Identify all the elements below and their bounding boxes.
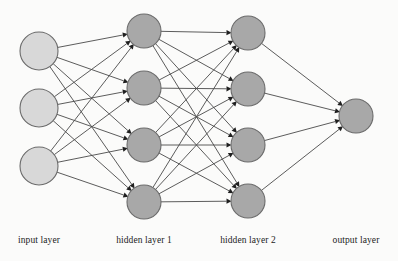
connection-edge [57,172,124,195]
neuron-node-h1_1 [127,14,161,48]
connection-edge [159,43,229,80]
connection-edge [155,44,233,130]
neuron-node-h1_2 [127,71,161,105]
neuron-node-h2_4 [231,184,265,218]
connection-edge [58,35,123,47]
connection-edge [261,43,338,103]
edge-arrowhead [129,44,134,50]
edge-arrowhead [337,126,343,131]
neuron-node-h1_3 [127,128,161,162]
connection-edge [161,88,227,89]
edges-group [50,31,339,202]
edge-arrowhead [125,98,131,103]
connection-edge [264,93,335,111]
connection-edge [54,101,126,155]
neuron-node-h2_1 [231,16,265,50]
neuron-node-i3 [20,147,58,185]
connection-edge [57,57,124,81]
connection-edge [161,201,227,202]
neuron-node-o1 [339,99,373,133]
neural-network-canvas: input layerhidden layer 1hidden layer 2o… [0,0,398,261]
edge-arrowhead [337,101,343,106]
connection-edge [58,149,123,162]
neuron-node-h2_2 [231,72,265,106]
layer-label-hidden1: hidden layer 1 [116,235,172,245]
edge-arrowhead [125,41,131,46]
connection-edge [58,92,123,104]
connection-edge [159,153,229,191]
layer-labels-group: input layerhidden layer 1hidden layer 2o… [18,235,380,245]
connection-edge [153,46,237,183]
connection-edge [264,122,335,141]
connection-edge [51,48,131,151]
connection-edge [53,64,128,131]
arrowheads-group [122,30,343,204]
neuron-node-i2 [20,89,58,127]
neural-network-diagram: input layerhidden layer 1hidden layer 2o… [0,0,398,261]
layer-label-hidden2: hidden layer 2 [220,235,276,245]
layer-label-input: input layer [18,235,61,245]
connection-edge [53,121,128,188]
connection-edge [54,44,126,97]
neuron-node-h1_4 [127,185,161,219]
neuron-node-h2_3 [231,128,265,162]
layer-label-output: output layer [333,235,381,245]
neuron-node-i1 [20,32,58,70]
connection-edge [161,31,227,32]
connection-edge [50,67,132,185]
